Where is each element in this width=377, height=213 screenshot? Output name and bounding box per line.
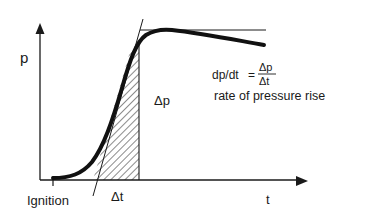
rate-formula: dp/dt = Δp Δt bbox=[212, 61, 276, 87]
x-axis-label: t bbox=[266, 192, 270, 207]
y-axis-label: p bbox=[20, 49, 28, 66]
formula-denominator: Δt bbox=[259, 75, 269, 87]
x-axis-arrow-icon bbox=[296, 176, 308, 186]
y-axis-arrow-icon bbox=[36, 23, 45, 34]
formula-equals: = bbox=[248, 68, 255, 82]
formula-lhs: dp/dt bbox=[212, 68, 239, 82]
delta-t-label: Δt bbox=[111, 189, 124, 204]
pressure-rise-diagram: p t Ignition Δt Δp dp/dt = Δp Δt rate of… bbox=[0, 0, 377, 213]
formula-numerator: Δp bbox=[259, 61, 272, 73]
delta-p-label: Δp bbox=[154, 93, 170, 108]
caption: rate of pressure rise bbox=[214, 89, 325, 103]
ignition-label: Ignition bbox=[27, 193, 69, 208]
